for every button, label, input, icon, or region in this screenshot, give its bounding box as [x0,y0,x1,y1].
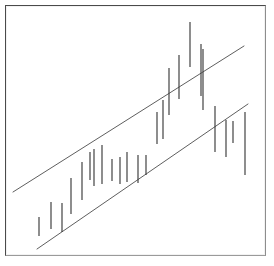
price-bars-group [39,22,245,236]
trend-channel-lower-line [37,104,248,249]
figure-root [0,0,274,266]
trend-channel-upper-line [13,46,244,192]
price-bar-chart [6,6,265,255]
chart-frame [5,5,266,256]
trend-channel-group [13,46,248,249]
